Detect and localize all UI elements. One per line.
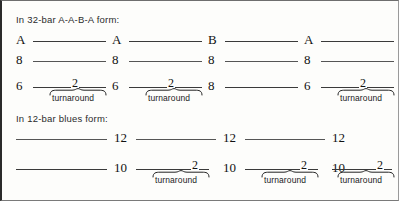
cell-label: 8 — [208, 79, 215, 93]
cell-label: 10 — [114, 161, 127, 175]
bar-rule — [129, 41, 202, 42]
cell-label: A — [112, 33, 121, 47]
cell-label: 12 — [114, 131, 127, 145]
bar-rule — [225, 61, 298, 62]
turnaround-label: turnaround — [155, 175, 197, 185]
cell-label: 8 — [208, 53, 215, 67]
cell-label: 12 — [332, 131, 345, 145]
section-heading-12bar: In 12-bar blues form: — [16, 113, 108, 124]
bar-rule — [225, 41, 298, 42]
cell-label: 10 — [223, 161, 236, 175]
figure-canvas: In 32-bar A-A-B-A form: A A B A 8 8 — [0, 0, 399, 201]
bar-rule — [321, 41, 394, 42]
bar-rule — [225, 87, 298, 88]
section-heading-32bar: In 32-bar A-A-B-A form: — [16, 14, 119, 25]
turnaround-label: turnaround — [52, 93, 94, 103]
bar-rule — [136, 139, 216, 140]
cell-label: B — [208, 33, 217, 47]
turnaround-label: turnaround — [340, 93, 382, 103]
bar-rule — [321, 61, 394, 62]
turnaround-label: turnaround — [148, 93, 190, 103]
cell-label: 6 — [16, 79, 23, 93]
row-bar-counts-twelve: 12 12 12 — [2, 131, 398, 155]
row-bar-split-turnaround-blues: 10 2 turnaround 10 2 turnaround 10 — [2, 161, 398, 185]
bar-rule — [16, 169, 107, 170]
bar-rule — [16, 139, 107, 140]
bar-rule — [33, 41, 106, 42]
bar-rule — [33, 61, 106, 62]
row-bar-split-turnaround: 6 2 turnaround 6 2 turnaround 8 — [2, 79, 398, 103]
cell-label: 8 — [304, 53, 311, 67]
row-bar-counts-eight: 8 8 8 8 — [2, 53, 398, 77]
cell-label: 12 — [223, 131, 236, 145]
bar-rule — [245, 139, 325, 140]
cell-label: 6 — [112, 79, 119, 93]
cell-label: A — [16, 33, 25, 47]
bar-rule — [129, 61, 202, 62]
cell-label: 8 — [16, 53, 23, 67]
cell-label: A — [304, 33, 313, 47]
turnaround-label: turnaround — [340, 175, 382, 185]
cell-label: 8 — [112, 53, 119, 67]
cell-label: 6 — [304, 79, 311, 93]
turnaround-label: turnaround — [264, 175, 306, 185]
